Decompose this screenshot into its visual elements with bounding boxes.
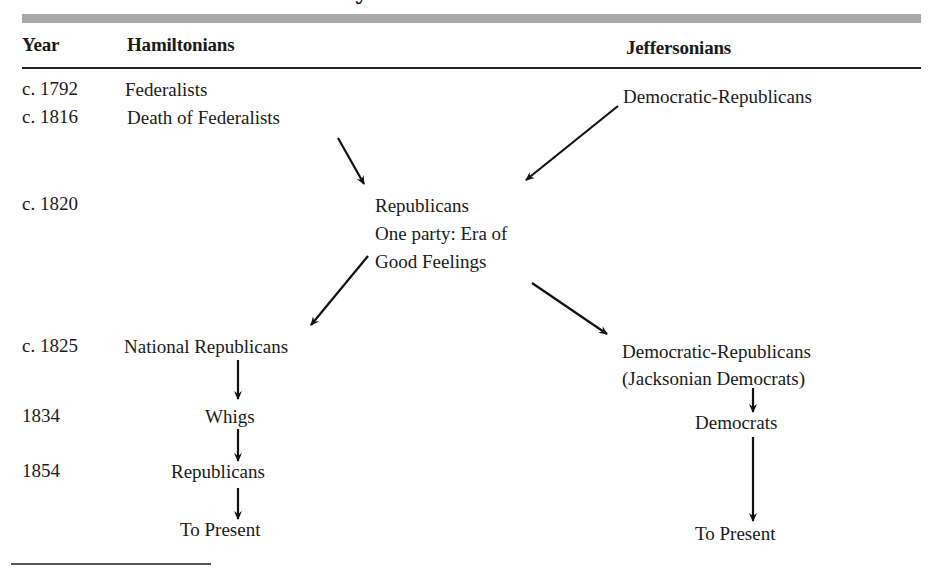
arrow-republicans-to-dem-rep (532, 283, 607, 334)
arrow-federalists-to-republicans (338, 138, 364, 184)
flow-arrows (0, 0, 931, 570)
arrow-dem-rep-to-republicans (526, 106, 618, 180)
arrow-republicans-to-national-republicans (311, 256, 368, 325)
footnote-rule (11, 563, 211, 565)
